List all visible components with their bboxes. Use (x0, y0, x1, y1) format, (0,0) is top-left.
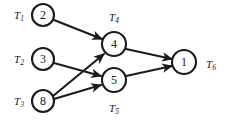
task-label-t3-subscript: 3 (19, 100, 24, 109)
node-t2[interactable]: 3 (32, 48, 54, 70)
task-label-t1: T1 (14, 9, 24, 23)
task-label-t4-subscript: 4 (115, 16, 119, 25)
node-t3[interactable]: 8 (32, 90, 54, 112)
task-label-t1-subscript: 1 (20, 14, 24, 23)
edge-t5-to-t6 (126, 66, 172, 76)
node-t1[interactable]: 2 (32, 4, 54, 26)
node-t4[interactable]: 4 (102, 32, 126, 56)
edge-t3-to-t5 (54, 85, 101, 99)
task-label-t5-subscript: 5 (115, 107, 119, 116)
edge-t4-to-t6 (126, 49, 172, 59)
task-label-t4: T4 (109, 11, 119, 25)
task-graph-diagram: 2 3 8 4 5 1 T1 T2 (0, 0, 229, 129)
node-t3-value: 8 (40, 94, 46, 108)
node-t1-value: 2 (40, 8, 46, 22)
task-label-t2: T2 (14, 53, 24, 67)
node-t4-value: 4 (111, 37, 117, 51)
node-t6-value: 1 (181, 55, 187, 69)
node-t5[interactable]: 5 (102, 68, 126, 92)
task-label-t6-subscript: 6 (212, 63, 216, 72)
task-label-t2-subscript: 2 (20, 58, 24, 67)
task-label-t3: T3 (14, 95, 24, 109)
node-t6[interactable]: 1 (172, 50, 196, 74)
edge-t2-to-t5 (54, 63, 101, 76)
task-label-t5: T5 (109, 102, 119, 116)
task-label-t6: T6 (206, 58, 216, 72)
edge-t1-to-t4 (54, 20, 102, 39)
node-t2-value: 3 (40, 52, 46, 66)
node-t5-value: 5 (111, 73, 117, 87)
